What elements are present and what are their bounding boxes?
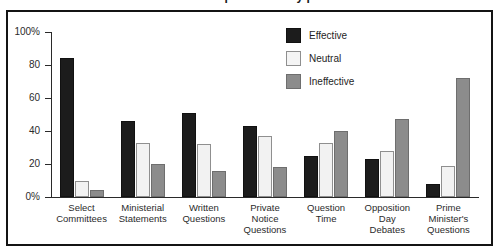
bar-effective (243, 126, 257, 197)
x-category-label-line: Minister's (414, 213, 483, 224)
bar-neutral (441, 166, 455, 197)
y-tick-label: 60 (6, 93, 40, 103)
bar-neutral (380, 151, 394, 197)
bar-effective (182, 113, 196, 197)
bar-group (357, 32, 418, 197)
chart-figure: Effectiveness of parliamentary procedure… (0, 0, 501, 252)
x-category-label: PrimeMinister'sQuestions (414, 202, 483, 235)
bar-group-bars (51, 32, 112, 197)
chart-title-clipped: Effectiveness of parliamentary procedure… (0, 0, 501, 9)
bar-effective (304, 156, 318, 197)
x-category-label-line: Day (353, 213, 422, 224)
x-category-label-line: Time (292, 213, 361, 224)
x-category-label: PrivateNoticeQuestions (230, 202, 299, 235)
x-category-label: QuestionTime (292, 202, 361, 224)
y-tick: 100% (8, 32, 52, 33)
y-tick-label: 40 (6, 126, 40, 136)
x-category-label-line: Questions (230, 224, 299, 235)
x-category-label: WrittenQuestions (169, 202, 238, 224)
y-tick-mark (45, 197, 52, 198)
y-tick: 60 (8, 98, 52, 99)
x-category-label-line: Opposition (353, 202, 422, 213)
bar-neutral (319, 143, 333, 197)
x-category-label-line: Questions (414, 224, 483, 235)
bar-effective (365, 159, 379, 197)
bar-ineffective (395, 119, 409, 197)
y-tick-label: 20 (6, 159, 40, 169)
bar-neutral (75, 181, 89, 198)
bar-neutral (136, 143, 150, 197)
bar-neutral (197, 144, 211, 197)
plot-frame: 100%806040200% EffectiveNeutralIneffecti… (6, 10, 493, 246)
bar-group-bars (173, 32, 234, 197)
x-category-label-line: Questions (169, 213, 238, 224)
x-category-label-line: Ministerial (108, 202, 177, 213)
bar-effective (60, 58, 74, 197)
x-category-label-line: Prime (414, 202, 483, 213)
x-category-label-line: Debates (353, 224, 422, 235)
x-category-label-line: Private (230, 202, 299, 213)
x-category-label-line: Question (292, 202, 361, 213)
y-tick: 40 (8, 131, 52, 132)
bar-ineffective (273, 167, 287, 197)
bar-ineffective (456, 78, 470, 197)
bar-group-bars (296, 32, 357, 197)
bar-ineffective (151, 164, 165, 197)
bar-group (51, 32, 112, 197)
x-axis-line (51, 197, 479, 198)
bar-effective (426, 184, 440, 197)
bar-ineffective (212, 171, 226, 197)
bar-group (296, 32, 357, 197)
bar-group-bars (357, 32, 418, 197)
bar-group (418, 32, 479, 197)
bar-group (234, 32, 295, 197)
chart-title: Effectiveness of parliamentary procedure… (0, 0, 501, 3)
y-tick-label: 100% (6, 27, 40, 37)
y-tick-label: 80 (6, 60, 40, 70)
bar-ineffective (334, 131, 348, 197)
x-category-label: OppositionDayDebates (353, 202, 422, 235)
y-axis-ticks: 100%806040200% (8, 12, 52, 248)
x-category-label: SelectCommittees (47, 202, 116, 224)
y-tick: 0% (8, 197, 52, 198)
x-category-label-line: Select (47, 202, 116, 213)
bar-group (173, 32, 234, 197)
bar-group-bars (112, 32, 173, 197)
bar-group-bars (418, 32, 479, 197)
bar-group (112, 32, 173, 197)
x-category-label-line: Committees (47, 213, 116, 224)
x-category-label-line: Written (169, 202, 238, 213)
bar-neutral (258, 136, 272, 197)
y-tick: 20 (8, 164, 52, 165)
x-category-label-line: Notice (230, 213, 299, 224)
y-tick: 80 (8, 65, 52, 66)
x-category-label-line: Statements (108, 213, 177, 224)
bar-effective (121, 121, 135, 197)
x-category-label: MinisterialStatements (108, 202, 177, 224)
bar-ineffective (90, 190, 104, 197)
bar-group-bars (234, 32, 295, 197)
y-tick-label: 0% (6, 192, 40, 202)
